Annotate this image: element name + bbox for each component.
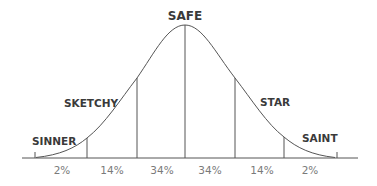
label-sketchy: SKETCHY [64,97,119,109]
percent-label: 14% [100,164,123,176]
label-safe: SAFE [168,9,202,23]
percent-label: 34% [150,164,173,176]
label-sinner: SINNER [32,135,76,147]
label-star: STAR [260,96,290,108]
percent-label: 14% [250,164,273,176]
label-saint: SAINT [302,132,338,144]
bell-curve-chart: SAFE SKETCHY STAR SINNER SAINT 2% 14% 34… [0,0,377,186]
percent-label: 2% [302,164,319,176]
percent-label: 2% [54,164,71,176]
percent-label: 34% [198,164,221,176]
